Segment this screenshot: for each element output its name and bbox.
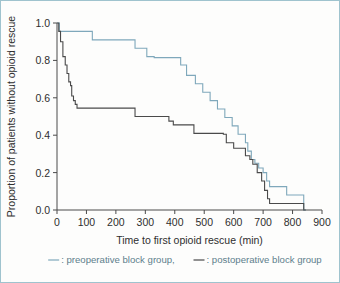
y-tick-label: 0.0 <box>35 204 50 216</box>
legend-label-preoperative: : preoperative block group, <box>61 254 175 265</box>
x-tick-label: 900 <box>313 216 331 228</box>
x-tick-label: 700 <box>254 216 272 228</box>
figure-frame: 01002003004005006007008009000.00.20.40.6… <box>0 0 340 283</box>
x-tick-label: 0 <box>54 216 60 228</box>
y-tick-label: 0.4 <box>35 129 50 141</box>
legend-label-postoperative: : postoperative block group <box>207 254 322 265</box>
x-tick-label: 200 <box>107 216 125 228</box>
x-tick-label: 800 <box>284 216 302 228</box>
y-tick-label: 1.0 <box>35 17 50 29</box>
x-tick-label: 400 <box>166 216 184 228</box>
x-tick-label: 300 <box>137 216 155 228</box>
plot-area: 01002003004005006007008009000.00.20.40.6… <box>5 16 331 265</box>
survival-chart: 01002003004005006007008009000.00.20.40.6… <box>1 1 340 283</box>
series-line-postoperative <box>57 23 306 210</box>
x-axis-title: Time to first opioid rescue (min) <box>116 234 263 246</box>
y-tick-label: 0.8 <box>35 54 50 66</box>
x-tick-label: 100 <box>78 216 96 228</box>
y-axis-title: Proportion of patients without opioid re… <box>5 16 17 218</box>
x-tick-label: 500 <box>195 216 213 228</box>
y-tick-label: 0.2 <box>35 167 50 179</box>
x-tick-label: 600 <box>225 216 243 228</box>
y-tick-label: 0.6 <box>35 92 50 104</box>
series-line-preoperative <box>57 23 306 210</box>
